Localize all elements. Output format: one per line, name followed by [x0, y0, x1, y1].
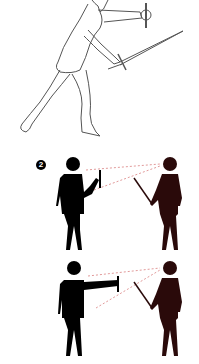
panel-3	[0, 0, 199, 364]
right-opponent	[134, 261, 182, 356]
left-fighter-extended	[58, 261, 119, 356]
